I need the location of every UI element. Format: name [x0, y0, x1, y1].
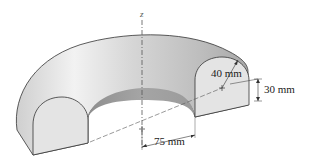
arrowhead — [191, 135, 195, 138]
arrowhead — [256, 97, 260, 101]
z-axis-label: z — [140, 10, 144, 19]
arrowhead — [256, 79, 260, 83]
centroid-radius-label: 75 mm — [154, 136, 185, 147]
height-label: 30 mm — [264, 84, 295, 95]
radius-label: 40 mm — [211, 68, 242, 79]
arrowhead — [142, 144, 147, 147]
left-section-face — [33, 97, 88, 155]
